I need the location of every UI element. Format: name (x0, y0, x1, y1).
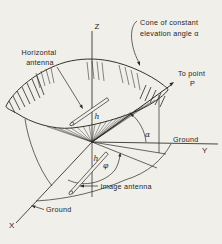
horizontal-antenna-label-line2: antenna (26, 58, 54, 67)
horizontal-antenna-leader (57, 67, 81, 105)
height-upper-label: h (95, 112, 100, 121)
ground-right-label: Ground (173, 135, 198, 144)
image-antenna-label: Image antenna (101, 182, 152, 191)
x-axis-label: X (9, 221, 15, 230)
to-point-p-label-line2: P (190, 79, 195, 88)
phi-angle-label: φ (103, 161, 109, 170)
ground-circle-arc (36, 144, 171, 201)
alpha-angle-label: α (145, 130, 150, 139)
ground-radial-line (92, 142, 166, 154)
diagram-canvas: Z X Y Cone of constant elevation angle α… (0, 0, 222, 244)
ground-left-label: Ground (46, 205, 71, 214)
horizontal-antenna-endcap (69, 122, 74, 127)
ground-left-leader (35, 207, 44, 210)
z-axis-label: Z (95, 22, 100, 31)
image-antenna-endcap (68, 190, 73, 195)
azimuth-radial-line (92, 142, 157, 168)
left-meridian-arc (25, 119, 52, 186)
horizontal-antenna-label-line1: Horizontal (22, 48, 57, 57)
alpha-angle-arc (131, 114, 146, 142)
height-lower-label: h (94, 154, 99, 163)
cone-rim-ellipse (6, 59, 168, 128)
cone-callout-leader (132, 21, 139, 62)
horizontal-antenna-arrowhead (79, 104, 83, 109)
right-rim-hatching (140, 85, 165, 107)
antenna-cone-figure: Z X Y Cone of constant elevation angle α… (0, 0, 222, 244)
cone-callout-line2: elevation angle α (140, 29, 199, 38)
cone-callout-arrowhead (137, 61, 140, 66)
to-point-p-label-line1: To point (178, 69, 205, 78)
cone-callout-line1: Cone of constant (140, 18, 198, 27)
y-axis-line (92, 142, 218, 144)
y-axis-label: Y (202, 146, 208, 155)
horizontal-antenna-rod (71, 98, 109, 126)
